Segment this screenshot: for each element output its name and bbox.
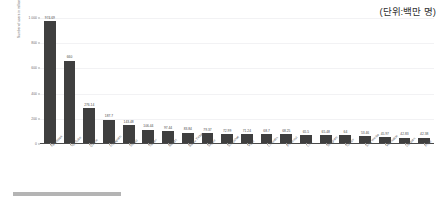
bar-item[interactable]: 143.48 [119, 18, 139, 143]
bar-value-label: 68.7 [263, 130, 269, 133]
x-label-slot: Twitter [139, 144, 159, 166]
plot-area: 02004006008001 000 974.69660276.14187.71… [40, 18, 434, 144]
bar-value-label: 72.99 [223, 130, 231, 133]
bar-item[interactable]: 53.46 [355, 18, 375, 143]
bar-item[interactable]: 68.25 [276, 18, 296, 143]
bar-series: 974.69660276.14187.7143.48106.4497.4483.… [40, 18, 434, 143]
y-tick-label: 600 [31, 66, 37, 70]
bar[interactable] [83, 108, 95, 143]
x-label-slot: Baidu Tieba [178, 144, 198, 166]
x-label-slot: Pinterest [276, 144, 296, 166]
bar-value-label: 65.48 [322, 131, 330, 134]
bar-item[interactable]: 187.7 [99, 18, 119, 143]
bar-item[interactable]: 72.99 [217, 18, 237, 143]
x-label-slot: Skype [198, 144, 218, 166]
bar-item[interactable]: 71.24 [237, 18, 257, 143]
bar-value-label: 79.37 [203, 129, 211, 132]
x-label-slot: Viber [237, 144, 257, 166]
y-tick-label: 200 [31, 117, 37, 121]
x-label-slot: Snapchat [217, 144, 237, 166]
x-label-slot: Douban [395, 144, 415, 166]
bar-value-label: 187.7 [105, 115, 113, 118]
x-axis-labels: FacebookYouTubeQzoneInstagramWeiboTwitte… [40, 144, 434, 166]
bar-chart: Number of users in millions 020040060080… [18, 16, 434, 166]
x-label-slot: Telegram [316, 144, 336, 166]
y-tick-label: 1 000 [29, 16, 38, 20]
x-label-slot: Weibo [119, 144, 139, 166]
bar-item[interactable]: 68.7 [257, 18, 277, 143]
bar[interactable] [64, 61, 76, 144]
y-tick-label: 400 [31, 92, 37, 96]
x-label-slot: Tumblr [336, 144, 356, 166]
bar-value-label: 97.44 [164, 127, 172, 130]
x-label-slot: LinkedIn [257, 144, 277, 166]
x-label-slot: VKontakte [375, 144, 395, 166]
chart-page: (단위:백만 명) Number of users in millions 02… [0, 0, 445, 202]
bar-value-label: 65.5 [303, 131, 309, 134]
bar-value-label: 42.83 [400, 133, 408, 136]
bar-item[interactable]: 974.69 [40, 18, 60, 143]
bar-value-label: 660 [67, 56, 73, 59]
bar-value-label: 53.46 [361, 132, 369, 135]
bar-value-label: 42.38 [420, 133, 428, 136]
bar[interactable] [44, 21, 56, 143]
bar-value-label: 106.44 [143, 125, 153, 128]
bar-value-label: 64 [344, 131, 348, 134]
bar-value-label: 143.48 [124, 121, 134, 124]
bar-item[interactable]: 79.37 [198, 18, 218, 143]
bar-value-label: 71.24 [243, 130, 251, 133]
bar-item[interactable]: 106.44 [139, 18, 159, 143]
bar-item[interactable]: 42.83 [395, 18, 415, 143]
x-label-slot: YouTube [60, 144, 80, 166]
x-label-slot: Qzone [79, 144, 99, 166]
bar-item[interactable]: 45.97 [375, 18, 395, 143]
x-label-slot: Line [296, 144, 316, 166]
bar-value-label: 83.84 [184, 128, 192, 131]
x-label-slot: Reddit [158, 144, 178, 166]
x-label-slot: Facebook [40, 144, 60, 166]
x-label-slot: Sina Weibo [355, 144, 375, 166]
bar-item[interactable]: 64 [336, 18, 356, 143]
y-tick-label: 800 [31, 41, 37, 45]
bar-item[interactable]: 660 [60, 18, 80, 143]
bar-item[interactable]: 65.48 [316, 18, 336, 143]
x-label-slot: Flickr [414, 144, 434, 166]
bar-item[interactable]: 65.5 [296, 18, 316, 143]
y-tick-label: 0 [35, 142, 37, 146]
y-axis-title: Number of users in millions [17, 0, 21, 38]
x-label-slot: Instagram [99, 144, 119, 166]
bar-item[interactable]: 83.84 [178, 18, 198, 143]
bar-item[interactable]: 42.38 [414, 18, 434, 143]
bar-item[interactable]: 276.14 [79, 18, 99, 143]
bar-item[interactable]: 97.44 [158, 18, 178, 143]
scroll-indicator[interactable] [13, 192, 121, 196]
bar-value-label: 974.69 [45, 17, 55, 20]
bar-value-label: 276.14 [84, 104, 94, 107]
bar-value-label: 45.97 [381, 133, 389, 136]
bar-value-label: 68.25 [282, 130, 290, 133]
